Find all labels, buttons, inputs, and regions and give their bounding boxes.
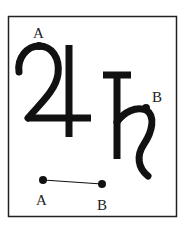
diagram-canvas: A B A B	[0, 0, 187, 225]
jupiter-point-label: A	[33, 25, 44, 41]
point-b-marker	[142, 104, 150, 112]
segment-end-dot	[98, 180, 106, 188]
segment-ab	[39, 176, 106, 188]
saturn-symbol-icon	[103, 73, 152, 176]
segment-end-label: B	[97, 197, 107, 213]
point-a-marker	[35, 42, 43, 50]
jupiter-symbol-icon	[19, 42, 91, 137]
segment-start-dot	[39, 176, 47, 184]
segment-start-label: A	[36, 192, 47, 208]
saturn-point-label: B	[152, 89, 162, 105]
